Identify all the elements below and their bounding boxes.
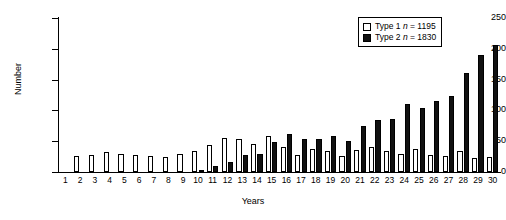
bar-type-1	[310, 149, 315, 172]
bar-group	[235, 18, 250, 172]
bar-group	[191, 18, 206, 172]
bar-group	[117, 18, 132, 172]
bar-type-2	[243, 155, 248, 172]
bar-group	[102, 18, 117, 172]
x-tick-label: 3	[87, 175, 102, 185]
bar-group	[176, 18, 191, 172]
chart-legend: Type 1 n = 1195 Type 2 n = 1830	[358, 17, 442, 47]
bar-type-1	[74, 156, 79, 172]
y-tick-mark	[52, 172, 58, 173]
x-tick-label: 2	[73, 175, 88, 185]
bar-group	[87, 18, 102, 172]
bar-group	[146, 18, 161, 172]
y-axis-title: Number	[13, 39, 23, 119]
x-tick-label: 23	[382, 175, 397, 185]
bar-type-1	[104, 152, 109, 172]
bar-type-2	[287, 134, 292, 172]
bar-type-2	[464, 73, 469, 172]
x-tick-label: 15	[264, 175, 279, 185]
x-tick-label: 10	[191, 175, 206, 185]
bar-type-1	[281, 147, 286, 172]
x-tick-label: 13	[235, 175, 250, 185]
legend-label-type-1: Type 1 n = 1195	[375, 21, 436, 32]
bar-type-1	[222, 138, 227, 172]
bar-type-2	[420, 108, 425, 172]
legend-n-symbol-type-1: n	[403, 21, 408, 31]
legend-n-symbol-type-2: n	[403, 32, 408, 42]
x-axis-line	[58, 172, 501, 173]
chart-figure: Number 050100150200250 12345678910111213…	[0, 0, 506, 220]
bar-type-1	[163, 157, 168, 172]
x-tick-label: 8	[161, 175, 176, 185]
bar-type-2	[331, 136, 336, 172]
bar-type-1	[354, 150, 359, 172]
x-tick-label: 14	[250, 175, 265, 185]
bar-type-2	[199, 170, 204, 172]
x-tick-label: 16	[279, 175, 294, 185]
bar-type-2	[405, 104, 410, 172]
legend-swatch-filled-square-icon	[363, 34, 371, 42]
x-tick-label: 29	[471, 175, 486, 185]
bar-type-1	[325, 151, 330, 172]
bar-type-1	[133, 155, 138, 172]
bar-type-2	[390, 119, 395, 172]
bar-type-1	[295, 155, 300, 172]
x-tick-label: 18	[308, 175, 323, 185]
bar-type-1	[443, 156, 448, 172]
bar-type-1	[266, 136, 271, 172]
bar-group	[220, 18, 235, 172]
bar-type-2	[257, 154, 262, 172]
bar-type-2	[302, 139, 307, 172]
x-tick-label: 7	[146, 175, 161, 185]
x-tick-label: 4	[102, 175, 117, 185]
bar-group	[73, 18, 88, 172]
bar-type-2	[375, 120, 380, 172]
x-tick-label: 26	[426, 175, 441, 185]
legend-swatch-open-square-icon	[363, 23, 371, 31]
bar-group	[338, 18, 353, 172]
bar-type-2	[346, 141, 351, 172]
x-tick-label: 5	[117, 175, 132, 185]
bar-group	[323, 18, 338, 172]
bar-type-1	[457, 151, 462, 172]
bar-group	[279, 18, 294, 172]
bar-type-1	[369, 147, 374, 172]
legend-n-value-type-2: = 1830	[410, 32, 436, 42]
bar-type-1	[251, 144, 256, 172]
bar-type-1	[207, 145, 212, 172]
legend-item-type-1: Type 1 n = 1195	[363, 21, 436, 32]
bar-type-2	[272, 142, 277, 172]
bar-group	[471, 18, 486, 172]
bar-type-1	[413, 149, 418, 172]
bar-type-2	[316, 139, 321, 172]
bar-type-2	[478, 55, 483, 172]
x-tick-label: 20	[338, 175, 353, 185]
x-tick-label: 28	[456, 175, 471, 185]
bar-type-1	[192, 151, 197, 172]
x-tick-label: 24	[397, 175, 412, 185]
x-tick-label: 19	[323, 175, 338, 185]
x-axis-title: Years	[0, 196, 506, 206]
legend-item-type-2: Type 2 n = 1830	[363, 32, 436, 43]
x-tick-label: 1	[58, 175, 73, 185]
bar-group	[161, 18, 176, 172]
x-tick-label: 25	[412, 175, 427, 185]
bar-type-2	[361, 126, 366, 172]
bar-type-1	[384, 151, 389, 172]
x-tick-label: 22	[367, 175, 382, 185]
bar-group	[264, 18, 279, 172]
bar-type-1	[118, 154, 123, 172]
x-tick-label: 17	[294, 175, 309, 185]
x-tick-label: 9	[176, 175, 191, 185]
bar-type-2	[434, 101, 439, 172]
legend-n-value-type-1: = 1195	[410, 21, 436, 31]
bar-type-1	[487, 157, 492, 172]
legend-label-type-2: Type 2 n = 1830	[375, 32, 436, 43]
bar-group	[441, 18, 456, 172]
bar-type-1	[177, 154, 182, 172]
bar-type-1	[148, 156, 153, 172]
bar-group	[294, 18, 309, 172]
bar-group	[132, 18, 147, 172]
bar-type-2	[493, 45, 498, 173]
bar-type-2	[449, 96, 454, 172]
